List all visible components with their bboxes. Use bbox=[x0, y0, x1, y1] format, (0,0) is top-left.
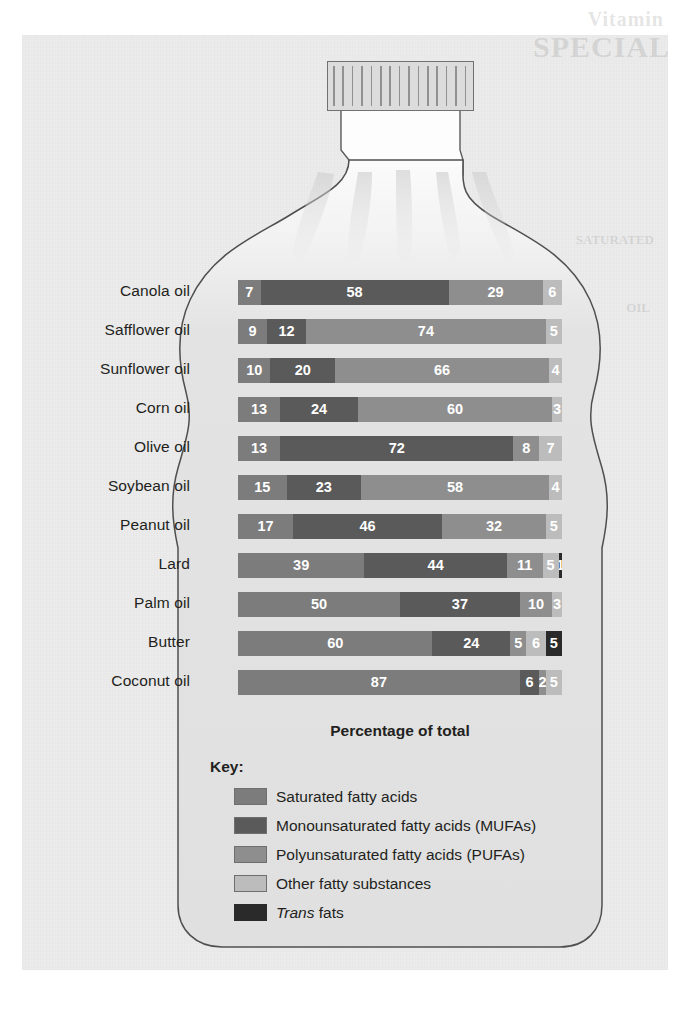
chart-row-label: Corn oil bbox=[0, 399, 190, 417]
stacked-bar: 1020664 bbox=[238, 358, 562, 383]
chart-row-label: Soybean oil bbox=[0, 477, 190, 495]
chart-row: Peanut oil1746325 bbox=[0, 510, 690, 549]
bar-segment-other: 6 bbox=[543, 280, 562, 305]
bar-segment-other: 6 bbox=[526, 631, 545, 656]
chart-row: Olive oil137287 bbox=[0, 432, 690, 471]
bar-segment-sat: 10 bbox=[238, 358, 270, 383]
bar-segment-other: 5 bbox=[546, 670, 562, 695]
bar-segment-sat: 17 bbox=[238, 514, 293, 539]
bar-segment-sat: 7 bbox=[238, 280, 261, 305]
bar-segment-other: 3 bbox=[552, 592, 562, 617]
legend-swatch-other-icon bbox=[234, 875, 267, 892]
legend-swatch-sat-icon bbox=[234, 788, 267, 805]
chart-row-label: Canola oil bbox=[0, 282, 190, 300]
stacked-bar: 6024565 bbox=[238, 631, 562, 656]
legend-label: Trans fats bbox=[276, 904, 344, 922]
bar-segment-pufa: 11 bbox=[507, 553, 543, 578]
bar-segment-mufa: 46 bbox=[293, 514, 442, 539]
chart-row-label: Olive oil bbox=[0, 438, 190, 456]
bar-segment-pufa: 66 bbox=[335, 358, 549, 383]
chart-row: Sunflower oil1020664 bbox=[0, 354, 690, 393]
bar-segment-other: 4 bbox=[549, 475, 562, 500]
bar-segment-mufa: 6 bbox=[520, 670, 539, 695]
legend-item-mufa: Monounsaturated fatty acids (MUFAs) bbox=[234, 811, 536, 840]
legend-swatch-mufa-icon bbox=[234, 817, 267, 834]
stacked-bar: 39441151 bbox=[238, 553, 562, 578]
bar-segment-trans: 1 bbox=[559, 553, 562, 578]
bar-segment-mufa: 72 bbox=[280, 436, 513, 461]
bar-segment-mufa: 37 bbox=[400, 592, 520, 617]
stacked-bar: 1746325 bbox=[238, 514, 562, 539]
legend-label: Polyunsaturated fatty acids (PUFAs) bbox=[276, 846, 525, 864]
bar-segment-other: 4 bbox=[549, 358, 562, 383]
chart-row-label: Sunflower oil bbox=[0, 360, 190, 378]
legend-label: Saturated fatty acids bbox=[276, 788, 417, 806]
chart-row: Corn oil1324603 bbox=[0, 393, 690, 432]
legend-title: Key: bbox=[210, 758, 536, 776]
bar-segment-sat: 13 bbox=[238, 397, 280, 422]
bar-segment-sat: 9 bbox=[238, 319, 267, 344]
chart-legend: Key: Saturated fatty acidsMonounsaturate… bbox=[210, 758, 536, 927]
bar-segment-other: 5 bbox=[546, 514, 562, 539]
stacked-bar: 5037103 bbox=[238, 592, 562, 617]
stacked-bar: 758296 bbox=[238, 280, 562, 305]
stacked-bar: 1324603 bbox=[238, 397, 562, 422]
bar-segment-pufa: 10 bbox=[520, 592, 552, 617]
bar-segment-pufa: 29 bbox=[449, 280, 543, 305]
chart-row: Safflower oil912745 bbox=[0, 315, 690, 354]
bar-segment-other: 7 bbox=[539, 436, 562, 461]
bar-segment-pufa: 74 bbox=[306, 319, 546, 344]
bar-segment-mufa: 12 bbox=[267, 319, 306, 344]
bar-segment-pufa: 5 bbox=[510, 631, 526, 656]
bar-segment-sat: 60 bbox=[238, 631, 432, 656]
bar-segment-mufa: 24 bbox=[432, 631, 510, 656]
bar-segment-other: 3 bbox=[552, 397, 562, 422]
bar-segment-sat: 15 bbox=[238, 475, 287, 500]
bar-segment-other: 5 bbox=[546, 319, 562, 344]
bar-segment-mufa: 20 bbox=[270, 358, 335, 383]
legend-item-other: Other fatty substances bbox=[234, 869, 536, 898]
chart-row: Soybean oil1523584 bbox=[0, 471, 690, 510]
legend-label: Other fatty substances bbox=[276, 875, 431, 893]
chart-row: Lard39441151 bbox=[0, 549, 690, 588]
legend-item-trans: Trans fats bbox=[234, 898, 536, 927]
bar-segment-sat: 87 bbox=[238, 670, 520, 695]
legend-swatch-trans-icon bbox=[234, 904, 267, 921]
legend-swatch-pufa-icon bbox=[234, 846, 267, 863]
chart-row: Canola oil758296 bbox=[0, 276, 690, 315]
legend-items: Saturated fatty acidsMonounsaturated fat… bbox=[210, 782, 536, 927]
stacked-bar-chart: Canola oil758296Safflower oil912745Sunfl… bbox=[0, 276, 690, 705]
axis-caption: Percentage of total bbox=[238, 722, 562, 740]
bar-segment-mufa: 58 bbox=[261, 280, 449, 305]
bar-segment-pufa: 32 bbox=[442, 514, 546, 539]
stacked-bar: 87625 bbox=[238, 670, 562, 695]
bar-segment-other: 5 bbox=[543, 553, 559, 578]
bar-segment-pufa: 8 bbox=[513, 436, 539, 461]
chart-row-label: Safflower oil bbox=[0, 321, 190, 339]
chart-row-label: Lard bbox=[0, 555, 190, 573]
chart-row: Butter6024565 bbox=[0, 627, 690, 666]
bar-segment-sat: 39 bbox=[238, 553, 364, 578]
chart-row-label: Palm oil bbox=[0, 594, 190, 612]
bar-segment-trans: 5 bbox=[546, 631, 562, 656]
chart-row: Palm oil5037103 bbox=[0, 588, 690, 627]
bar-segment-sat: 13 bbox=[238, 436, 280, 461]
bar-segment-pufa: 60 bbox=[358, 397, 552, 422]
legend-item-pufa: Polyunsaturated fatty acids (PUFAs) bbox=[234, 840, 536, 869]
chart-row-label: Peanut oil bbox=[0, 516, 190, 534]
chart-row-label: Coconut oil bbox=[0, 672, 190, 690]
stacked-bar: 137287 bbox=[238, 436, 562, 461]
bar-segment-mufa: 24 bbox=[280, 397, 358, 422]
stacked-bar: 912745 bbox=[238, 319, 562, 344]
chart-row-label: Butter bbox=[0, 633, 190, 651]
figure-page: Vitamin SPECIAL SATURATED OIL bbox=[0, 0, 690, 1022]
ghost-text-line1: Vitamin bbox=[588, 8, 664, 31]
bottle-cap-icon bbox=[327, 61, 474, 111]
bottle-cap-ridges bbox=[333, 66, 468, 106]
legend-item-sat: Saturated fatty acids bbox=[234, 782, 536, 811]
bar-segment-pufa: 58 bbox=[361, 475, 549, 500]
legend-label: Monounsaturated fatty acids (MUFAs) bbox=[276, 817, 536, 835]
stacked-bar: 1523584 bbox=[238, 475, 562, 500]
bar-segment-mufa: 44 bbox=[364, 553, 507, 578]
bar-segment-mufa: 23 bbox=[287, 475, 362, 500]
